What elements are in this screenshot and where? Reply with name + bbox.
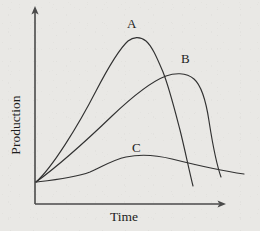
y-axis-label: Production <box>8 95 23 154</box>
curve-c <box>36 155 244 182</box>
curve-label-c: C <box>132 140 141 155</box>
curve-label-b: B <box>181 51 190 66</box>
x-axis-label: Time <box>110 209 138 224</box>
production-axis <box>31 6 38 204</box>
time-axis <box>35 201 226 208</box>
curve-b <box>36 74 221 182</box>
production-vs-time-chart: A B C Time Production <box>0 0 260 231</box>
curve-label-a: A <box>127 16 137 31</box>
